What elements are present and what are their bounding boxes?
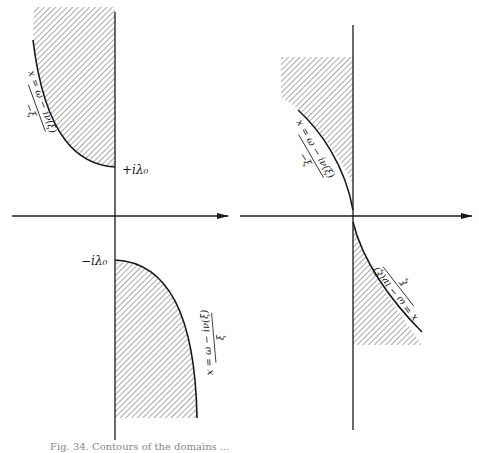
svg-text:ξ: ξ [214, 334, 225, 341]
figure-caption: Fig. 34. Contours of the domains ... [50, 441, 229, 452]
left-lower-hatched-region [115, 260, 197, 418]
left-lower-curve-equation: x = ω − iν(ξ) ξ [198, 308, 229, 376]
left-panel [12, 7, 228, 440]
left-upper-hatched-region [33, 7, 115, 167]
minus-i-lambda0-label: −iλ₀ [81, 254, 107, 268]
svg-text:ξ: ξ [397, 277, 409, 289]
svg-text:−ξ: −ξ [297, 150, 314, 168]
svg-text:−ξ: −ξ [23, 102, 38, 119]
right-panel [240, 25, 472, 430]
plus-i-lambda0-label: +iλ₀ [122, 163, 148, 177]
contour-diagram: +iλ₀ −iλ₀ x = ω − iν(ξ) −ξ x = ω − iν(ξ)… [0, 0, 479, 453]
